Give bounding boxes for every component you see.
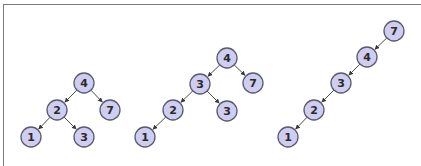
tree-node: 2 (163, 100, 183, 120)
tree-node: 2 (47, 100, 67, 120)
node-label: 1 (27, 131, 35, 144)
edge-arrow (91, 90, 102, 102)
tree-node: 2 (304, 100, 324, 120)
node-label: 4 (363, 51, 371, 64)
edge-arrow (208, 65, 220, 76)
tree-node: 4 (357, 47, 377, 67)
edge-arrow (349, 64, 360, 75)
edge-arrow (65, 90, 77, 102)
edge-arrow (64, 117, 76, 129)
node-label: 3 (80, 131, 88, 144)
node-label: 1 (284, 131, 292, 144)
node-label: 7 (390, 25, 398, 38)
node-label: 4 (80, 77, 88, 90)
tree-node: 1 (21, 127, 41, 147)
node-label: 1 (141, 131, 149, 144)
edge-arrow (234, 65, 245, 75)
edge-arrow (375, 38, 387, 49)
tree-node: 1 (278, 127, 298, 147)
tree-node: 3 (331, 73, 351, 93)
edge-arrow (207, 91, 219, 103)
node-label: 3 (223, 105, 231, 118)
tree-node: 3 (74, 127, 94, 147)
node-label: 4 (223, 52, 231, 65)
node-label: 7 (106, 104, 114, 117)
node-label: 3 (337, 77, 345, 90)
edge-arrow (181, 91, 193, 102)
unbalanced-tree: 437231 (135, 48, 263, 147)
node-label: 3 (196, 78, 204, 91)
edge-arrow (322, 90, 334, 102)
balanced-tree: 42713 (21, 73, 120, 147)
tree-node: 7 (100, 100, 120, 120)
node-label: 2 (53, 104, 61, 117)
edge-arrow (296, 117, 307, 129)
nodes-layer: 4271343723174321 (21, 21, 404, 147)
tree-node: 7 (384, 21, 404, 41)
tree-node: 4 (217, 48, 237, 68)
edge-arrow (153, 117, 166, 129)
tree-node: 7 (243, 73, 263, 93)
tree-node: 3 (190, 74, 210, 94)
node-label: 2 (310, 104, 318, 117)
tree-node: 3 (217, 101, 237, 121)
tree-node: 1 (135, 127, 155, 147)
node-label: 7 (249, 77, 257, 90)
node-label: 2 (169, 104, 177, 117)
tree-node: 4 (74, 73, 94, 93)
edge-arrow (39, 117, 50, 129)
